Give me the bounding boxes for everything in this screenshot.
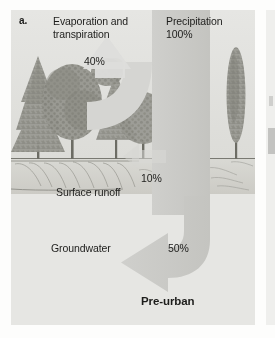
sliver-detail-upper [269,96,273,106]
panel-pre-urban: a. Evaporation and transpiration 40% Pre… [11,10,255,325]
groundwater-percent-label: 50% [168,242,189,255]
paper-texture [11,10,255,325]
adjacent-panel-sliver [266,10,275,325]
surface-runoff-label: Surface runoff [56,186,120,199]
panel-caption: Pre-urban [141,295,194,308]
evapotranspiration-percent-label: 40% [84,55,105,68]
sliver-detail-lower [268,128,275,154]
precipitation-label: Precipitation 100% [166,15,222,40]
figure-root: a. Evaporation and transpiration 40% Pre… [0,0,275,338]
scene-illustration [11,10,255,325]
surface-runoff-percent-label: 10% [141,172,162,185]
groundwater-label: Groundwater [51,242,111,255]
panel-label: a. [19,15,27,28]
evapotranspiration-label: Evaporation and transpiration [53,15,128,40]
